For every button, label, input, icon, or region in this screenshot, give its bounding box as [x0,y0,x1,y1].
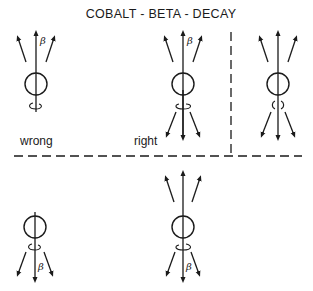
emission-arrow-down-left [167,112,176,135]
panel-bottom-left: β [18,212,52,280]
emission-arrow-down-right [190,112,199,135]
emission-arrow-down-right [44,252,52,274]
panel-bottom-middle: β [166,173,200,280]
emission-arrow-up-right [192,178,200,202]
beta-symbol: β [39,35,46,46]
panel-top-left: β wrong [18,33,54,148]
spin-curl-right-icon [281,101,284,109]
emission-arrow-down-left [167,252,175,274]
beta-symbol: β [186,35,193,46]
panel-top-right [260,33,296,138]
emission-arrow-down-left [18,252,26,274]
beta-symbol: β [37,261,44,272]
diagram-title: COBALT - BETA - DECAY [86,7,237,21]
emission-arrow-up-left [166,178,174,202]
cobalt-beta-decay-diagram: COBALT - BETA - DECAY β wrong β right [0,0,313,291]
emission-arrow-up-left [165,38,173,62]
emission-arrow-up-left [260,38,268,62]
beta-symbol: β [185,261,192,272]
emission-arrow-down-right [191,252,199,274]
emission-arrow-left [18,38,26,62]
spin-curl-left-icon [272,101,275,109]
emission-arrow-up-right [288,38,296,62]
emission-arrow-down-left [262,112,271,135]
emission-arrow-up-right [193,38,201,62]
emission-arrow-down-right [285,112,294,135]
panel-top-middle: β right [134,33,201,148]
emission-arrow-right [46,38,54,62]
label-right: right [134,134,158,148]
label-wrong: wrong [19,134,53,148]
